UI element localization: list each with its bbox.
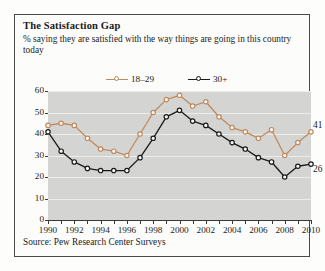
x-axis-tick xyxy=(166,220,167,224)
series-line xyxy=(48,95,311,155)
data-point xyxy=(151,136,155,140)
data-point xyxy=(112,149,116,153)
data-point xyxy=(72,160,76,164)
series-layer xyxy=(48,91,311,220)
data-point xyxy=(112,168,116,172)
y-axis-tick-label: 10 xyxy=(18,193,44,203)
y-axis-tick xyxy=(45,156,48,157)
data-point xyxy=(296,164,300,168)
data-point xyxy=(125,168,129,172)
x-axis-tick xyxy=(272,220,273,224)
x-axis-tick xyxy=(127,220,128,224)
data-point xyxy=(98,147,102,151)
data-point xyxy=(85,166,89,170)
y-axis-tick xyxy=(45,177,48,178)
data-point xyxy=(217,132,221,136)
y-axis-tick xyxy=(45,134,48,135)
x-axis-tick xyxy=(311,220,312,224)
x-axis-tick xyxy=(140,220,141,224)
x-axis-tick xyxy=(101,220,102,224)
legend-swatch-18-29-icon xyxy=(106,75,128,84)
data-point xyxy=(309,130,313,134)
series-30-plus xyxy=(46,108,313,179)
x-axis-tick xyxy=(193,220,194,224)
x-axis-tick xyxy=(180,220,181,224)
data-point xyxy=(164,97,168,101)
data-point xyxy=(283,175,287,179)
x-axis-tick xyxy=(232,220,233,224)
data-point xyxy=(177,108,181,112)
data-point xyxy=(243,130,247,134)
x-axis-tick xyxy=(87,220,88,224)
x-axis-tick xyxy=(114,220,115,224)
data-point xyxy=(138,155,142,159)
data-point xyxy=(164,115,168,119)
y-axis-tick-label: 30 xyxy=(18,150,44,160)
data-point xyxy=(217,115,221,119)
y-axis-tick-label: 20 xyxy=(18,171,44,181)
legend-label-18-29: 18–29 xyxy=(131,74,154,84)
legend-item-30-plus: 30+ xyxy=(188,74,227,84)
y-axis-tick-label: 50 xyxy=(18,107,44,117)
x-axis-tick xyxy=(153,220,154,224)
data-point xyxy=(269,128,273,132)
end-label-18-29: 41 xyxy=(313,120,322,130)
y-axis-tick xyxy=(45,113,48,114)
y-axis-tick xyxy=(45,199,48,200)
data-point xyxy=(177,93,181,97)
data-point xyxy=(256,136,260,140)
x-axis-tick xyxy=(48,220,49,224)
x-axis-tick xyxy=(298,220,299,224)
chart-legend: 18–29 30+ xyxy=(15,74,311,88)
data-point xyxy=(190,119,194,123)
data-point xyxy=(85,136,89,140)
data-point xyxy=(138,132,142,136)
data-point xyxy=(151,110,155,114)
data-point xyxy=(243,147,247,151)
data-point xyxy=(296,140,300,144)
data-point xyxy=(190,104,194,108)
data-point xyxy=(204,123,208,127)
source-note: Source: Pew Research Center Surveys xyxy=(23,237,166,247)
plot-area xyxy=(48,91,311,220)
data-point xyxy=(230,125,234,129)
x-axis-tick xyxy=(245,220,246,224)
data-point xyxy=(204,100,208,104)
x-axis-tick xyxy=(74,220,75,224)
series-18-29 xyxy=(46,93,313,158)
x-axis-tick-label: 2010 xyxy=(296,225,325,235)
chart-panel: The Satisfaction Gap % saying they are s… xyxy=(14,14,310,257)
x-axis-tick xyxy=(206,220,207,224)
data-point xyxy=(72,123,76,127)
figure: The Satisfaction Gap % saying they are s… xyxy=(0,0,325,271)
end-label-30-plus: 26 xyxy=(313,164,322,174)
legend-label-30-plus: 30+ xyxy=(213,74,227,84)
y-axis-tick-label: 40 xyxy=(18,128,44,138)
x-axis-tick xyxy=(61,220,62,224)
data-point xyxy=(59,149,63,153)
x-axis-tick xyxy=(285,220,286,224)
page-title: The Satisfaction Gap xyxy=(23,20,121,31)
y-axis-tick-label: 0 xyxy=(18,214,44,224)
data-point xyxy=(256,155,260,159)
y-axis-tick-label: 60 xyxy=(18,85,44,95)
data-point xyxy=(59,121,63,125)
data-point xyxy=(46,123,50,127)
data-point xyxy=(283,153,287,157)
data-point xyxy=(230,140,234,144)
data-point xyxy=(125,153,129,157)
x-axis-tick xyxy=(219,220,220,224)
legend-item-18-29: 18–29 xyxy=(106,74,154,84)
chart-subtitle: % saying they are satisfied with the way… xyxy=(23,34,299,57)
y-axis-tick xyxy=(45,91,48,92)
data-point xyxy=(98,168,102,172)
data-point xyxy=(269,160,273,164)
legend-swatch-30-plus-icon xyxy=(188,75,210,84)
x-axis-tick xyxy=(258,220,259,224)
